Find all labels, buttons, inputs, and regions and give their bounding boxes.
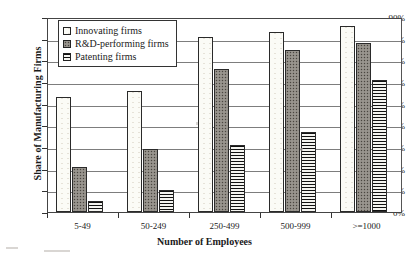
bar [285,50,300,213]
bar [214,69,229,212]
bar-group [332,19,403,212]
legend-item: R&D-performing firms [63,37,169,50]
x-axis-tick-label: 5-49 [74,221,91,231]
bar-group [190,19,261,212]
bar [198,37,213,213]
scan-artifact [6,247,18,249]
bar [372,80,387,212]
dotted-square-swatch-icon [63,40,71,48]
bar [127,91,142,212]
x-axis-tick-label: 250-499 [210,221,240,231]
x-axis-tick-mark [331,213,332,218]
x-axis-tick-label: 50-249 [141,221,167,231]
bar [159,190,174,212]
bar [230,145,245,212]
open-square-swatch-icon [63,27,71,35]
legend-item-label: Innovating firms [75,25,142,36]
x-axis-tick-label: 500-999 [281,221,311,231]
scan-artifact [196,122,198,125]
bar-group [261,19,332,212]
chart-legend: Innovating firms R&D-performing firms Pa… [58,20,177,67]
bar [269,32,284,212]
legend-item: Patenting firms [63,50,169,63]
bar [356,43,371,212]
bar [88,201,103,212]
bar [56,97,71,212]
bar [72,167,87,213]
x-axis-tick-label: >=1000 [352,221,380,231]
legend-item-label: Patenting firms [75,51,136,62]
x-axis-tick-mark [189,213,190,218]
legend-item: Innovating firms [63,24,169,37]
scan-artifact [44,250,70,252]
legend-item-label: R&D-performing firms [75,38,169,49]
bar [143,149,158,212]
x-axis-tick-mark [47,213,48,218]
x-axis-title: Number of Employees [0,236,409,247]
y-axis-title: Share of Manufacturing Firms [32,14,43,214]
bar-chart-figure: Share of Manufacturing Firms 0%10%20%30%… [0,0,409,260]
scan-artifact [300,148,303,151]
bar [301,132,316,212]
bar [340,26,355,212]
x-axis-tick-mark [118,213,119,218]
x-axis-tick-mark [260,213,261,218]
hatched-square-swatch-icon [63,53,71,61]
